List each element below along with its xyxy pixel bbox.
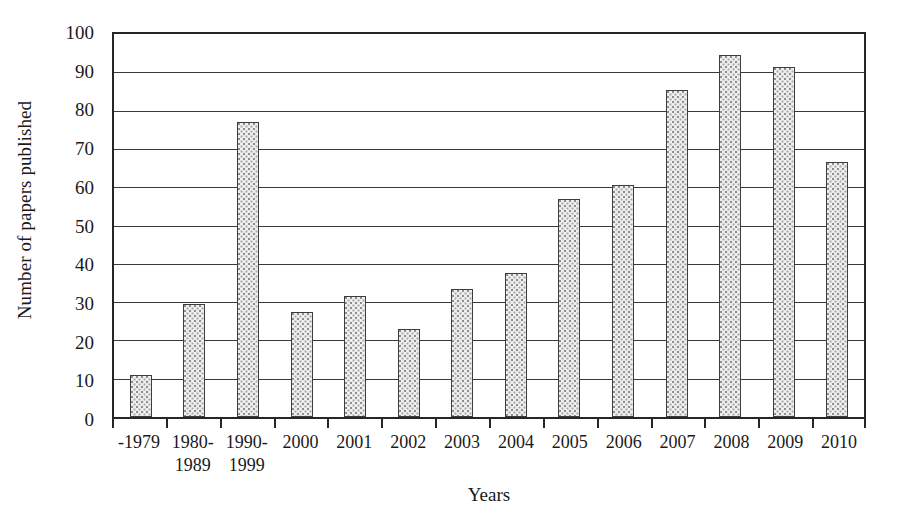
y-axis-tick-labels: 0102030405060708090100 bbox=[52, 32, 104, 419]
x-axis-tick-mark bbox=[435, 419, 437, 428]
x-axis-tick-slot bbox=[597, 419, 651, 428]
x-axis-tick-mark bbox=[112, 419, 114, 428]
x-axis-tick-mark bbox=[166, 419, 168, 428]
x-axis-tick-slot bbox=[166, 419, 220, 428]
x-axis-tick-slot bbox=[651, 419, 705, 428]
bar[interactable] bbox=[398, 329, 420, 417]
bar-slot bbox=[543, 34, 597, 417]
bar[interactable] bbox=[558, 199, 580, 417]
x-axis-tick-slot bbox=[327, 419, 381, 428]
x-axis-tick-mark bbox=[651, 419, 653, 428]
x-axis-tick-labels: -19791980- 19891990- 1999200020012002200… bbox=[112, 431, 866, 483]
x-axis-tick-slot bbox=[435, 419, 489, 428]
y-axis-tick-label: 40 bbox=[75, 255, 94, 274]
bar-slot bbox=[221, 34, 275, 417]
bar[interactable] bbox=[826, 162, 848, 417]
x-axis-tick-marks bbox=[112, 419, 866, 428]
x-axis-tick-slot bbox=[758, 419, 812, 428]
x-axis-tick-label: 2009 bbox=[758, 431, 812, 483]
bar[interactable] bbox=[719, 55, 741, 417]
x-axis-tick-label: 2000 bbox=[274, 431, 328, 483]
y-axis-tick-label: 100 bbox=[66, 23, 95, 42]
x-axis-tick-label: -1979 bbox=[112, 431, 166, 483]
x-axis-tick-label: 2003 bbox=[435, 431, 489, 483]
bar-slot bbox=[382, 34, 436, 417]
x-axis-tick-mark bbox=[220, 419, 222, 428]
bar-chart: Number of papers published 0102030405060… bbox=[0, 0, 910, 524]
x-axis-tick-mark bbox=[274, 419, 276, 428]
y-axis-tick-label: 70 bbox=[75, 139, 94, 158]
x-axis-tick-mark bbox=[704, 419, 706, 428]
x-axis-tick-slot bbox=[274, 419, 328, 428]
bar[interactable] bbox=[183, 304, 205, 417]
x-axis-tick-mark bbox=[543, 419, 545, 428]
y-axis-title: Number of papers published bbox=[12, 0, 38, 420]
bar[interactable] bbox=[666, 90, 688, 417]
x-axis-tick-label: 1990- 1999 bbox=[220, 431, 274, 483]
x-axis-tick-label: 2001 bbox=[327, 431, 381, 483]
bar[interactable] bbox=[237, 122, 259, 417]
bar-slot bbox=[650, 34, 704, 417]
bar[interactable] bbox=[451, 289, 473, 417]
y-axis-tick-label: 80 bbox=[75, 100, 94, 119]
bar-slot bbox=[757, 34, 811, 417]
x-axis-tick-mark bbox=[327, 419, 329, 428]
x-axis-tick-slot bbox=[220, 419, 274, 428]
x-axis-tick-slot bbox=[381, 419, 435, 428]
bar[interactable] bbox=[291, 312, 313, 417]
bar[interactable] bbox=[344, 296, 366, 417]
x-axis-tick-label: 2010 bbox=[812, 431, 866, 483]
x-axis-tick-label: 2004 bbox=[489, 431, 543, 483]
plot-area bbox=[112, 32, 866, 419]
bars-layer bbox=[114, 34, 864, 417]
bar-slot bbox=[328, 34, 382, 417]
x-axis-tick-slot bbox=[489, 419, 543, 428]
x-axis-tick-label: 2007 bbox=[651, 431, 705, 483]
x-axis-tick-label: 2008 bbox=[704, 431, 758, 483]
x-axis-tick-slot bbox=[543, 419, 597, 428]
bar-slot bbox=[168, 34, 222, 417]
x-axis-tick-mark bbox=[864, 419, 866, 428]
x-axis-tick-label: 2002 bbox=[381, 431, 435, 483]
bar-slot bbox=[811, 34, 865, 417]
y-axis-tick-label: 50 bbox=[75, 216, 94, 235]
y-axis-tick-label: 10 bbox=[75, 371, 94, 390]
bar-slot bbox=[703, 34, 757, 417]
bar-slot bbox=[275, 34, 329, 417]
bar[interactable] bbox=[130, 375, 152, 417]
y-axis-tick-label: 30 bbox=[75, 293, 94, 312]
bar-slot bbox=[114, 34, 168, 417]
bar[interactable] bbox=[612, 185, 634, 417]
y-axis-tick-label: 60 bbox=[75, 177, 94, 196]
x-axis-tick-slot bbox=[112, 419, 166, 428]
x-axis-tick-mark bbox=[758, 419, 760, 428]
bar[interactable] bbox=[773, 67, 795, 417]
x-axis-tick-slot bbox=[704, 419, 758, 428]
x-axis-tick-mark bbox=[597, 419, 599, 428]
y-axis-tick-label: 20 bbox=[75, 332, 94, 351]
x-axis-tick-mark bbox=[812, 419, 814, 428]
bar-slot bbox=[489, 34, 543, 417]
y-axis-tick-label: 0 bbox=[85, 410, 95, 429]
x-axis-title: Years bbox=[112, 484, 866, 506]
bar[interactable] bbox=[505, 273, 527, 417]
x-axis-tick-label: 2005 bbox=[543, 431, 597, 483]
bar-slot bbox=[435, 34, 489, 417]
x-axis-tick-label: 1980- 1989 bbox=[166, 431, 220, 483]
x-axis-tick-slot bbox=[812, 419, 866, 428]
y-axis-tick-label: 90 bbox=[75, 61, 94, 80]
x-axis-tick-mark bbox=[489, 419, 491, 428]
bar-slot bbox=[596, 34, 650, 417]
x-axis-tick-mark bbox=[381, 419, 383, 428]
x-axis-tick-label: 2006 bbox=[597, 431, 651, 483]
